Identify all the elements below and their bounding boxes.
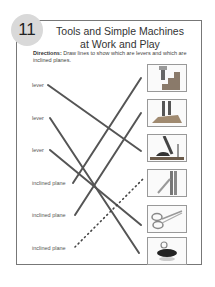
label-inclined-plane-2[interactable]: inclined plane [32, 212, 66, 218]
picture-hammer[interactable] [147, 134, 187, 162]
hammer-icon [150, 136, 184, 160]
worksheet-title: Tools and Simple Machines at Work and Pl… [40, 25, 200, 51]
line-lever1-hammer [48, 85, 141, 151]
picture-stairs[interactable] [147, 64, 187, 92]
bottle-opener-icon [152, 239, 182, 263]
label-lever-2[interactable]: lever [32, 115, 44, 121]
scissors-icon [150, 207, 184, 231]
picture-zipper[interactable] [147, 169, 187, 197]
label-inclined-plane-3[interactable]: inclined plane [32, 245, 66, 251]
picture-ramp[interactable] [147, 99, 187, 127]
activity-number-badge: 11 [11, 14, 43, 46]
picture-bottle-opener[interactable] [147, 237, 187, 265]
directions-label: Directions: [33, 50, 62, 56]
picture-scissors[interactable] [147, 205, 187, 233]
label-inclined-plane-1[interactable]: inclined plane [32, 180, 66, 186]
label-lever-1[interactable]: lever [32, 82, 44, 88]
label-lever-3[interactable]: lever [32, 147, 44, 153]
zipper-icon [152, 171, 182, 195]
directions: Directions: Draw lines to show which are… [33, 50, 193, 64]
line-incline3-zipper [75, 178, 144, 247]
title-line-1: Tools and Simple Machines [40, 25, 200, 38]
stairs-icon [152, 66, 182, 90]
activity-number: 11 [18, 20, 36, 40]
ramp-icon [150, 101, 184, 125]
